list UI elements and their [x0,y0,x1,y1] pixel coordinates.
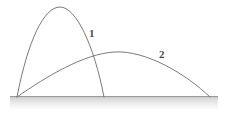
ground-band [10,96,218,110]
trajectory-label-2: 2 [159,49,165,60]
trajectory-label-1: 1 [89,28,95,39]
trajectory-curve-2 [17,52,210,97]
projectile-figure: 1 2 [0,0,228,114]
trajectory-svg [0,0,228,114]
trajectory-curve-1 [17,7,104,97]
